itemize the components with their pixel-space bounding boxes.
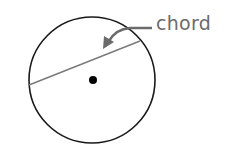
chord-label: chord	[156, 12, 211, 34]
center-point	[89, 76, 97, 84]
chord-line	[29, 41, 140, 85]
